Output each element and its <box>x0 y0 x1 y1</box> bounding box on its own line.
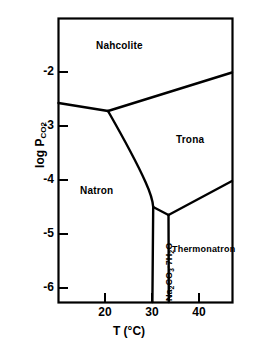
formula-na: Na <box>164 289 174 301</box>
plot-frame <box>59 19 233 303</box>
formula-sub-1: 2 <box>168 286 175 290</box>
y-axis-title-text: log PCO2 <box>33 122 47 168</box>
region-label-heptahydrate-wrap: Na2CO3·7H2O <box>158 209 172 301</box>
formula-sub-2: 3 <box>168 268 175 272</box>
y-axis-title: log PCO2 <box>30 85 50 205</box>
phase-diagram-figure: -2 -3 -4 -5 -6 20 30 40 log PCO2 T (°C) … <box>0 0 258 357</box>
region-label-nahcolite: Nahcolite <box>96 40 143 51</box>
formula-co: CO <box>164 272 174 286</box>
region-label-heptahydrate: Na2CO3·7H2O <box>164 243 174 301</box>
region-label-thermonatron: Thermonatron <box>172 244 235 254</box>
x-tick-label-2: 40 <box>184 305 214 319</box>
region-label-natron: Natron <box>80 185 113 196</box>
formula-hydrate: ·7H <box>164 254 174 269</box>
x-axis-title: T (°C) <box>0 324 258 338</box>
y-tick-label-4: -6 <box>24 280 54 294</box>
y-tick-label-3: -5 <box>24 226 54 240</box>
y-tick-label-0: -2 <box>24 64 54 78</box>
y-axis-title-main: log P <box>33 139 47 168</box>
x-tick-label-1: 30 <box>137 305 167 319</box>
formula-oxygen: O <box>164 243 174 250</box>
formula-sub-3: 2 <box>168 250 175 254</box>
y-axis-title-sub: CO2 <box>39 122 48 138</box>
region-label-trona: Trona <box>176 134 204 145</box>
x-tick-label-0: 20 <box>90 305 120 319</box>
boundary-natron-heptahydrate <box>152 207 153 302</box>
